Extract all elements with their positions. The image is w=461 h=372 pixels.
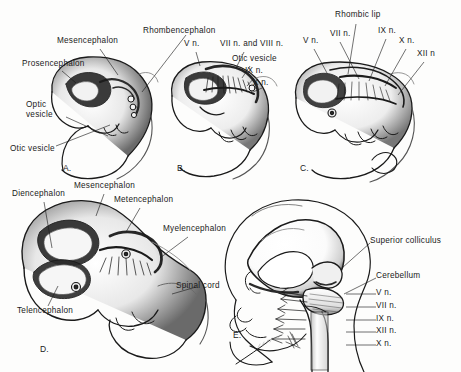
- label-myelencephalon-d: Myelencephalon: [163, 224, 226, 234]
- label-otic-vesicle-b: Otic vesicle: [232, 54, 277, 64]
- panel-c-artwork: [296, 62, 415, 182]
- label-vii-viii-nerve-b: VII n. and VIII n.: [220, 39, 283, 49]
- label-v-nerve-e: V n.: [376, 288, 392, 298]
- label-diencephalon-d: Diencephalon: [12, 189, 65, 199]
- label-v-nerve-c: V n.: [303, 36, 319, 46]
- panel-letter-a: A.: [63, 163, 71, 173]
- label-rhombencephalon-a: Rhombencephalon: [143, 26, 215, 36]
- label-ix-nerve-c: IX n.: [378, 26, 396, 36]
- label-vii-nerve-c: VII n.: [330, 29, 351, 39]
- label-rhombic-lip-c: Rhombic lip: [335, 10, 381, 20]
- embryology-brain-development-figure: Mesencephalon Prosencephalon Optic vesic…: [0, 0, 461, 372]
- label-x-nerve-e: X n.: [376, 339, 392, 349]
- label-xii-nerve-e: XII n.: [376, 326, 397, 336]
- label-optic-vesicle-a: Optic vesicle: [26, 100, 53, 119]
- label-mesencephalon-d: Mesencephalon: [74, 181, 135, 191]
- label-mesencephalon-a: Mesencephalon: [57, 36, 118, 46]
- label-x-nerve-b: X n.: [253, 78, 269, 88]
- label-cerebellum-e: Cerebellum: [376, 271, 420, 281]
- label-xii-nerve-c: XII n: [417, 49, 435, 59]
- label-ix-nerve-b: IX n.: [245, 66, 263, 76]
- label-prosencephalon-a: Prosencephalon: [22, 59, 85, 69]
- label-metencephalon-d: Metencephalon: [114, 195, 173, 205]
- label-x-nerve-c: X n.: [399, 36, 415, 46]
- label-spinal-cord-d: Spinal cord: [176, 281, 220, 291]
- label-otic-vesicle-a: Otic vesicle: [10, 144, 55, 154]
- panel-e-artwork: [225, 200, 370, 372]
- panel-letter-e: E.: [233, 330, 241, 340]
- panel-letter-b: B.: [177, 163, 185, 173]
- label-superior-colliculus-e: Superior colliculus: [370, 236, 441, 246]
- panel-letter-c: C.: [300, 163, 309, 173]
- label-telencephalon-d: Telencephalon: [17, 306, 73, 316]
- label-vii-nerve-e: VII n.: [376, 301, 397, 311]
- label-v-nerve-b: V n.: [184, 39, 200, 49]
- panel-letter-d: D.: [40, 344, 49, 354]
- label-ix-nerve-e: IX n.: [376, 314, 394, 324]
